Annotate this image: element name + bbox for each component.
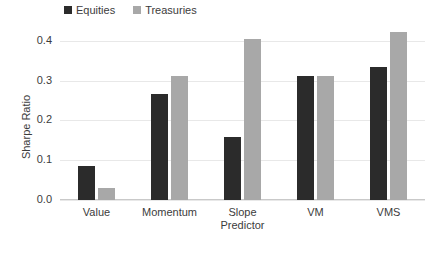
legend-item-equities: Equities [64, 5, 115, 16]
x-axis-tick-label: VM [279, 206, 352, 219]
y-axis-tick-label: 0.2 [0, 114, 52, 125]
bar-equities [297, 76, 314, 200]
y-axis-tick-label: 0.1 [0, 154, 52, 165]
chart-legend: Equities Treasuries [64, 2, 197, 18]
y-axis-tick-label: 0.4 [0, 35, 52, 46]
bar-treasuries [244, 39, 261, 200]
bar-group [133, 25, 206, 200]
legend-label-treasuries: Treasuries [145, 5, 197, 16]
legend-swatch-treasuries [133, 6, 141, 14]
x-axis-tick-label: VMS [352, 206, 425, 219]
legend-item-treasuries: Treasuries [133, 5, 197, 16]
bar-treasuries [317, 76, 334, 200]
bar-treasuries [390, 32, 407, 200]
bar-group [279, 25, 352, 200]
bar-equities [370, 67, 387, 200]
y-axis-tick-label: 0.3 [0, 75, 52, 86]
y-axis-tick-label: 0.0 [0, 194, 52, 205]
bar-group [60, 25, 133, 200]
x-axis-tick-label: Value [60, 206, 133, 219]
sharpe-ratio-bar-chart: Equities Treasuries Sharpe Ratio 0.00.10… [0, 0, 438, 254]
y-axis-title: Sharpe Ratio [21, 95, 32, 159]
gridline [60, 200, 425, 201]
legend-label-equities: Equities [76, 5, 115, 16]
plot-area [60, 25, 425, 200]
bar-treasuries [171, 76, 188, 200]
bar-equities [151, 94, 168, 200]
bar-treasuries [98, 188, 115, 200]
bar-group [352, 25, 425, 200]
x-axis-tick-label: Momentum [133, 206, 206, 219]
bar-equities [78, 166, 95, 200]
bar-group [206, 25, 279, 200]
bar-equities [224, 137, 241, 200]
legend-swatch-equities [64, 6, 72, 14]
x-axis-tick-label: Slope Predictor [206, 206, 279, 232]
